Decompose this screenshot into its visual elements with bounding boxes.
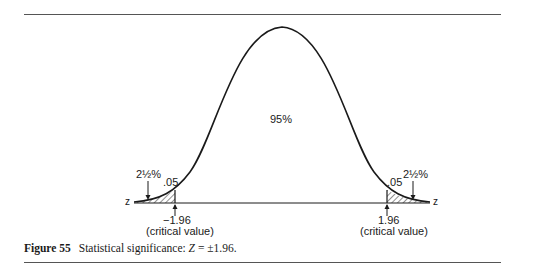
figure-caption: Figure 55Statistical significance: Z = ±… <box>24 242 237 254</box>
right-alpha-label: .05 <box>387 176 402 188</box>
right-critical-caption: (critical value) <box>360 225 428 237</box>
left-alpha-label: .05 <box>163 176 178 188</box>
caption-value: = ±1.96. <box>195 242 237 254</box>
left-critical-caption: (critical value) <box>146 225 214 237</box>
caption-text: Statistical significance: <box>79 242 189 254</box>
axis-label-left: z <box>125 196 130 208</box>
right-tail-percent-label: 2½% <box>403 168 428 180</box>
bottom-rule <box>24 262 501 263</box>
left-tail-percent-label: 2½% <box>136 168 161 180</box>
center-percent-label: 95% <box>270 113 292 125</box>
figure-number: Figure 55 <box>24 242 71 254</box>
axis-label-right: z <box>433 196 438 208</box>
